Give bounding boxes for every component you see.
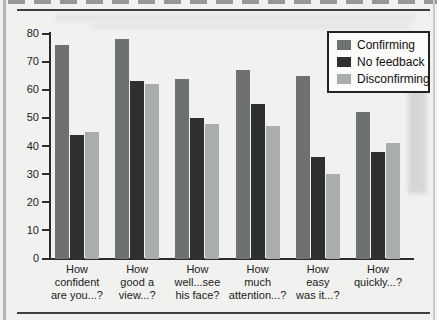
x-category-label-line: How [336, 263, 420, 276]
bar-disconfirming [386, 143, 400, 258]
bar-confirming [296, 76, 310, 259]
bar-confirming [55, 45, 69, 259]
y-tick-label: 60 [11, 84, 39, 95]
y-tick [42, 33, 49, 35]
legend-entry: No feedback [337, 55, 428, 69]
bar-disconfirming [266, 126, 280, 258]
bar-confirming [115, 39, 129, 258]
bar-no-feedback [311, 157, 325, 258]
legend-swatch-icon [337, 74, 351, 84]
y-tick [42, 61, 49, 63]
y-axis-line [49, 32, 51, 260]
bar-disconfirming [145, 84, 159, 258]
y-tick-label: 70 [11, 56, 39, 67]
legend-label: Confirming [357, 38, 415, 52]
y-tick [42, 89, 49, 91]
legend-label: Disconfirming [357, 72, 430, 86]
bar-confirming [175, 79, 189, 259]
legend: ConfirmingNo feedbackDisconfirming [327, 31, 430, 93]
x-category-label-line: quickly...? [336, 276, 420, 289]
legend-swatch-icon [337, 40, 351, 50]
y-tick-label: 80 [11, 28, 39, 39]
bar-disconfirming [205, 124, 219, 259]
y-tick [42, 201, 49, 203]
legend-entry: Confirming [337, 38, 428, 52]
bar-confirming [356, 112, 370, 258]
bar-disconfirming [85, 132, 99, 259]
bar-chart: 01020304050607080 Howconfidentare you...… [0, 0, 437, 320]
y-tick-label: 50 [11, 112, 39, 123]
y-tick [42, 258, 49, 260]
bar-no-feedback [190, 118, 204, 259]
bar-confirming [236, 70, 250, 258]
legend-swatch-icon [337, 57, 351, 67]
legend-label: No feedback [357, 55, 424, 69]
x-category-label: Howquickly...? [336, 263, 420, 289]
y-tick-label: 20 [11, 197, 39, 208]
y-tick-label: 10 [11, 225, 39, 236]
y-tick [42, 145, 49, 147]
x-category-label-line: was it...? [276, 289, 360, 302]
bar-no-feedback [371, 152, 385, 259]
y-tick-label: 30 [11, 169, 39, 180]
y-tick [42, 117, 49, 119]
bar-no-feedback [70, 135, 84, 259]
y-tick-label: 40 [11, 141, 39, 152]
y-tick [42, 173, 49, 175]
bar-no-feedback [130, 81, 144, 258]
bar-disconfirming [326, 174, 340, 258]
scanned-page: 01020304050607080 Howconfidentare you...… [0, 0, 437, 320]
bar-no-feedback [251, 104, 265, 259]
y-tick [42, 229, 49, 231]
legend-entry: Disconfirming [337, 72, 428, 86]
